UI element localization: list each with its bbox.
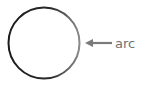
arrow-icon [85, 39, 112, 47]
diagram-canvas: arc [0, 0, 145, 85]
arc-label: arc [115, 36, 135, 51]
circle-arc [9, 8, 80, 79]
